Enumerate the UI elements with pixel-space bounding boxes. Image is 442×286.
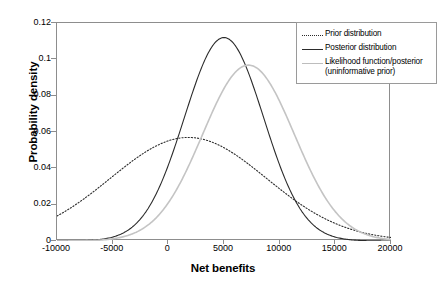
y-tick-label: 0.08 (0, 90, 51, 99)
legend-swatch-solid-line-icon (299, 45, 325, 54)
y-tick-label: 0.06 (0, 127, 51, 136)
x-tick-label: 20000 (355, 244, 425, 253)
series-line-0 (57, 137, 391, 237)
legend-label: Likelihood function/posterior (uninforma… (325, 57, 423, 76)
y-tick-label: 0.1 (0, 54, 51, 63)
y-axis-title: Probability density (27, 2, 39, 222)
legend-item-prior: Prior distribution (299, 29, 433, 40)
legend-swatch-dotted-line-icon (299, 31, 325, 40)
y-tick-label: 0.04 (0, 163, 51, 172)
series-line-2 (57, 65, 391, 241)
legend-label: Prior distribution (325, 29, 381, 39)
x-axis-title: Net benefits (56, 262, 390, 274)
y-tick-label: 0.02 (0, 199, 51, 208)
legend-label: Posterior distribution (325, 43, 396, 53)
legend-item-posterior: Posterior distribution (299, 43, 433, 54)
legend: Prior distribution Posterior distributio… (296, 22, 437, 84)
y-tick-mark (51, 240, 56, 241)
chart-figure: Probability density Net benefits 00.020.… (0, 0, 442, 286)
y-tick-label: 0.12 (0, 18, 51, 27)
legend-item-likelihood: Likelihood function/posterior (uninforma… (299, 57, 433, 76)
legend-swatch-grey-line-icon (299, 59, 325, 68)
